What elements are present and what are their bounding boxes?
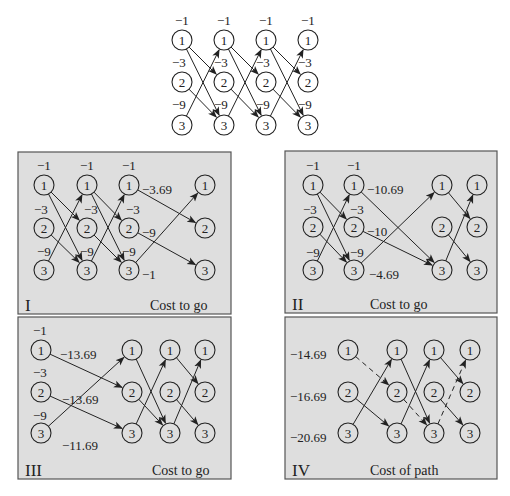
node-1-1: 1 bbox=[31, 340, 51, 360]
node-label: 1 bbox=[394, 343, 401, 358]
weight-label: −9 bbox=[298, 97, 312, 112]
node-label: 1 bbox=[167, 343, 174, 358]
node-label: 2 bbox=[126, 221, 133, 236]
panel-i: 123123123123−1−1−1−3−3−3−9−9−9−3.69−9−1I… bbox=[18, 152, 231, 315]
cost-label: −13.69 bbox=[62, 392, 99, 407]
cost-label: −3 bbox=[33, 365, 47, 380]
cost-label: −13.69 bbox=[60, 347, 97, 362]
panel-caption: Cost to go bbox=[152, 463, 210, 478]
node-2-1: 1 bbox=[77, 175, 97, 195]
node-label: 1 bbox=[474, 178, 481, 193]
node-3-3: 3 bbox=[432, 260, 452, 280]
weight-label: −1 bbox=[175, 13, 189, 28]
node-label: 1 bbox=[84, 178, 91, 193]
panel-iii: 123123123123−1−3−9−13.69−13.69−11.69IIIC… bbox=[18, 317, 231, 480]
edge-arrow bbox=[189, 47, 216, 74]
node-label: 1 bbox=[126, 178, 133, 193]
panel-numeral: II bbox=[292, 295, 304, 314]
node-label: 3 bbox=[202, 263, 209, 278]
node-label: 3 bbox=[126, 263, 133, 278]
panel-caption: Cost to go bbox=[370, 297, 428, 312]
node-label: 3 bbox=[474, 263, 481, 278]
node-4-1: 1 bbox=[460, 340, 480, 360]
cost-label: −1 bbox=[347, 158, 361, 173]
weight-label: −3 bbox=[172, 55, 186, 70]
weight-label: −3 bbox=[214, 55, 228, 70]
node-label: 1 bbox=[351, 178, 358, 193]
node-label: 1 bbox=[179, 33, 186, 48]
cost-label: −16.69 bbox=[290, 389, 327, 404]
node-label: 2 bbox=[167, 385, 174, 400]
cost-label: −1 bbox=[80, 158, 94, 173]
node-1-2: 2 bbox=[338, 382, 358, 402]
node-label: 3 bbox=[84, 263, 91, 278]
node-2-3: 3 bbox=[122, 423, 142, 443]
node-1-2: 2 bbox=[31, 382, 51, 402]
node-label: 2 bbox=[310, 220, 317, 235]
node-3-3: 3 bbox=[119, 260, 139, 280]
weight-label: −1 bbox=[217, 13, 231, 28]
node-2-2: 2 bbox=[214, 72, 234, 92]
cost-label: −1 bbox=[142, 267, 156, 282]
node-label: 2 bbox=[345, 385, 352, 400]
node-4-1: 1 bbox=[195, 175, 215, 195]
node-2-3: 3 bbox=[214, 115, 234, 135]
cost-label: −1 bbox=[122, 158, 136, 173]
cost-label: −9 bbox=[306, 245, 320, 260]
cost-label: −10 bbox=[367, 224, 387, 239]
node-label: 3 bbox=[167, 426, 174, 441]
node-label: 2 bbox=[41, 221, 48, 236]
node-1-3: 3 bbox=[31, 423, 51, 443]
node-label: 2 bbox=[202, 385, 209, 400]
node-label: 1 bbox=[221, 33, 228, 48]
node-4-1: 1 bbox=[298, 30, 318, 50]
weight-label: −9 bbox=[172, 97, 186, 112]
cost-label: −1 bbox=[33, 323, 47, 338]
node-label: 3 bbox=[129, 426, 136, 441]
node-2-1: 1 bbox=[122, 340, 142, 360]
node-3-1: 1 bbox=[160, 340, 180, 360]
weight-label: −9 bbox=[214, 97, 228, 112]
cost-label: −3 bbox=[34, 202, 48, 217]
node-4-1: 1 bbox=[195, 340, 215, 360]
node-4-2: 2 bbox=[467, 217, 487, 237]
cost-label: −11.69 bbox=[62, 438, 98, 453]
node-label: 1 bbox=[263, 33, 270, 48]
cost-label: −20.69 bbox=[290, 430, 327, 445]
weight-label: −1 bbox=[301, 13, 315, 28]
node-4-2: 2 bbox=[460, 382, 480, 402]
node-label: 3 bbox=[439, 263, 446, 278]
panel-iv: 123123123123−14.69−16.69−20.69IVCost of … bbox=[285, 317, 497, 480]
node-3-1: 1 bbox=[119, 175, 139, 195]
cost-label: −4.69 bbox=[369, 267, 399, 282]
node-4-3: 3 bbox=[298, 115, 318, 135]
node-4-3: 3 bbox=[195, 423, 215, 443]
node-1-2: 2 bbox=[34, 218, 54, 238]
node-label: 3 bbox=[431, 426, 438, 441]
node-2-2: 2 bbox=[77, 218, 97, 238]
node-label: 2 bbox=[431, 385, 438, 400]
node-4-3: 3 bbox=[460, 423, 480, 443]
cost-label: −3 bbox=[126, 202, 140, 217]
cost-label: −9 bbox=[33, 408, 47, 423]
node-1-1: 1 bbox=[303, 175, 323, 195]
node-3-2: 2 bbox=[160, 382, 180, 402]
node-2-1: 1 bbox=[387, 340, 407, 360]
node-label: 3 bbox=[310, 263, 317, 278]
node-label: 1 bbox=[310, 178, 317, 193]
cost-label: −14.69 bbox=[290, 347, 327, 362]
node-1-1: 1 bbox=[34, 175, 54, 195]
node-3-1: 1 bbox=[256, 30, 276, 50]
dp-trellis-figure: 123123123123−1−1−1−1−3−3−3−3−9−9−9−9 123… bbox=[0, 0, 510, 496]
node-label: 2 bbox=[351, 220, 358, 235]
node-label: 3 bbox=[202, 426, 209, 441]
node-2-3: 3 bbox=[387, 423, 407, 443]
node-label: 2 bbox=[179, 75, 186, 90]
node-label: 1 bbox=[202, 343, 209, 358]
panel-ii: 123123123123−1−1−3−3−9−9−10.69−10−4.69II… bbox=[285, 151, 497, 314]
node-1-1: 1 bbox=[172, 30, 192, 50]
cost-label: −3 bbox=[84, 202, 98, 217]
weight-label: −3 bbox=[256, 55, 270, 70]
node-label: 1 bbox=[467, 343, 474, 358]
node-1-3: 3 bbox=[303, 260, 323, 280]
